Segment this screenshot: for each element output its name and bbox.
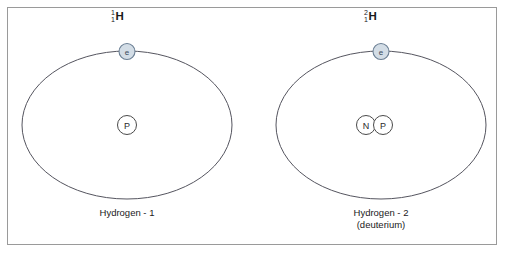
caption-hydrogen-1: Hydrogen - 1 [67, 207, 187, 219]
caption-hydrogen-1-line1: Hydrogen - 1 [67, 207, 187, 219]
caption-hydrogen-2-line2: (deuterium) [321, 219, 441, 231]
neutron-label-hydrogen-2: N [363, 121, 370, 131]
electron-label-hydrogen-1: e [125, 48, 130, 57]
caption-hydrogen-2-line1: Hydrogen - 2 [321, 207, 441, 219]
nucleus-hydrogen-1: P [118, 116, 137, 135]
electron-hydrogen-2: e [373, 44, 389, 60]
proton-label-hydrogen-2: P [380, 121, 386, 131]
caption-hydrogen-2: Hydrogen - 2 (deuterium) [321, 207, 441, 231]
electron-hydrogen-1: e [119, 44, 135, 60]
diagram-canvas: 1 1 H 2 1 H P N P e [0, 0, 506, 254]
nucleus-hydrogen-2: N P [357, 116, 393, 135]
proton-label-hydrogen-1: P [124, 121, 130, 131]
electron-label-hydrogen-2: e [379, 48, 384, 57]
